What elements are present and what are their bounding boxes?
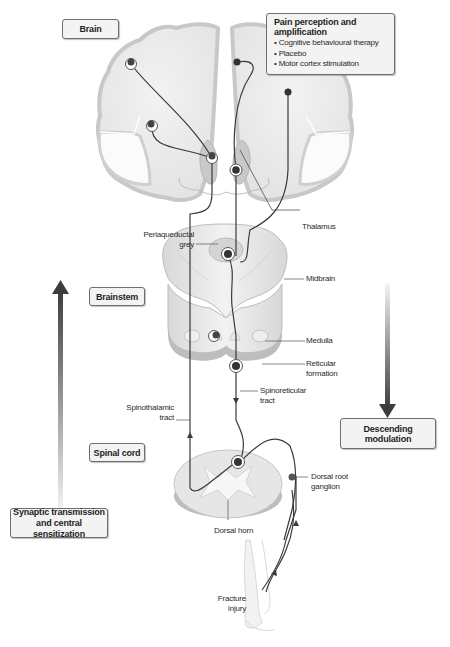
label-dorsal-horn: Dorsal horn: [214, 526, 253, 536]
descending-arrow: [379, 283, 396, 418]
label-spinoreticular-tract: Spinoreticulartract: [260, 386, 306, 406]
pain-perception-box: Pain perception and amplification Cognit…: [266, 13, 395, 75]
region-box-brainstem: Brainstem: [89, 287, 145, 306]
label-fracture-injury: Fractureinjury: [210, 594, 246, 614]
intervention-item: Placebo: [274, 49, 388, 60]
dorsal-root-ganglion-dot: [289, 474, 296, 481]
pain-pathway-diagram: Brain Brainstem Spinal cord Pain percept…: [0, 0, 450, 647]
label-dorsal-root-ganglion: Dorsal rootganglion: [311, 472, 348, 492]
ascending-box-line1: Synaptic transmission: [13, 507, 105, 518]
intervention-item: Motor cortex stimulation: [274, 59, 388, 70]
ascending-pathway-box: Synaptic transmission and central sensit…: [10, 508, 108, 538]
leg-illustration: [245, 540, 275, 631]
label-midbrain: Midbrain: [306, 274, 335, 284]
region-box-spinal-cord: Spinal cord: [89, 443, 145, 462]
label-reticular-formation: Reticularformation: [306, 359, 338, 379]
label-medulla: Medulla: [306, 336, 333, 346]
label-spinothalamic-tract: Spinothalamictract: [112, 403, 174, 423]
descending-modulation-box: Descending modulation: [340, 418, 436, 449]
label-thalamus: Thalamus: [302, 222, 336, 232]
pain-interventions-list: Cognitive behavioural therapy Placebo Mo…: [274, 38, 388, 70]
diagram-illustration: [0, 0, 450, 647]
intervention-item: Cognitive behavioural therapy: [274, 38, 388, 49]
ascending-box-line2: and central sensitization: [11, 518, 107, 540]
region-box-brain: Brain: [62, 19, 119, 39]
label-periaqueductal-grey: Periaqueductalgrey: [136, 230, 194, 250]
ascending-arrow: [52, 280, 69, 512]
pain-perception-title: Pain perception and amplification: [274, 17, 388, 37]
